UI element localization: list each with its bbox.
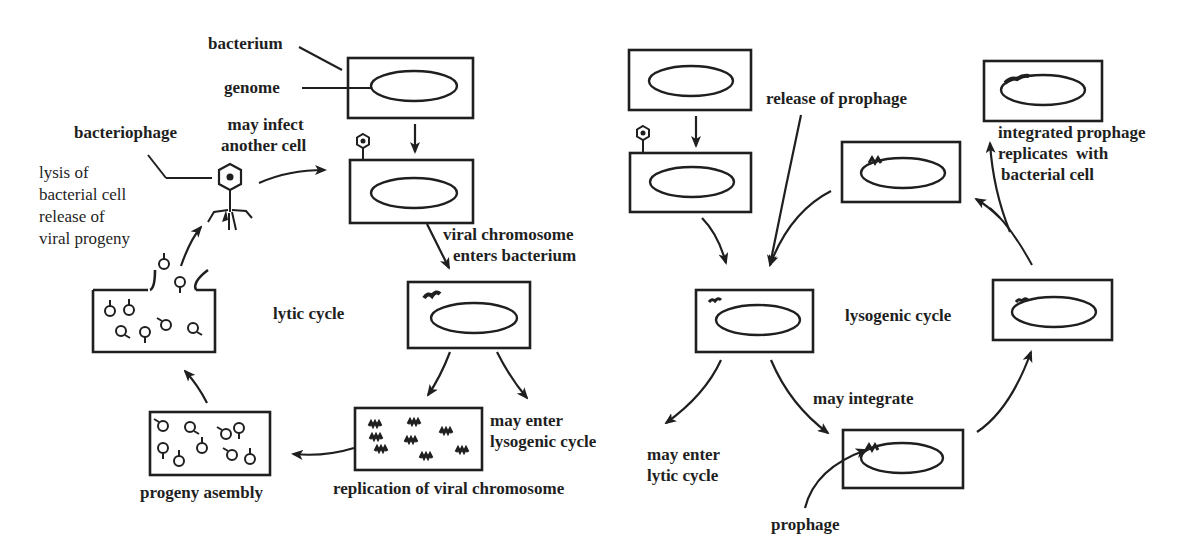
- label-lysis-line4: viral progeny: [39, 228, 130, 250]
- bacteriophage-icon: [208, 164, 252, 230]
- infected-cell: [350, 134, 473, 223]
- lysogenic-cycle: [629, 50, 1112, 508]
- phage-life-cycle-diagram: [0, 0, 1203, 559]
- bacteriophage-pointer: [148, 155, 166, 178]
- label-may-enter-lytic-line2: lytic cycle: [647, 465, 720, 486]
- replicating-cell: [993, 280, 1112, 340]
- prophage-pointer: [805, 450, 866, 508]
- lyso-bacterium-cell: [629, 50, 751, 110]
- arrow-to-replicating: [977, 352, 1031, 432]
- label-prophage: prophage: [771, 514, 840, 535]
- arrow-release: [181, 227, 201, 266]
- label-may-infect-line1: may infect: [221, 114, 306, 135]
- replication-cell: [355, 408, 482, 470]
- arrow-to-replication: [428, 352, 450, 395]
- integrating-cell: [843, 430, 963, 488]
- bacterium-pointer: [299, 47, 342, 70]
- label-integrated-line3: bacterial cell: [998, 164, 1146, 185]
- label-integrated-line1: integrated prophage: [998, 122, 1146, 143]
- arrow-to-upper-cell: [976, 199, 1000, 218]
- label-replication: replication of viral chromosome: [333, 478, 564, 499]
- label-lysis-line1: lysis of: [39, 162, 130, 184]
- label-integrated-line2: replicates with: [998, 143, 1146, 164]
- label-lysis-line2: bacterial cell: [39, 184, 130, 206]
- lysis-cell: [93, 253, 215, 352]
- label-may-enter-lytic-line1: may enter: [647, 444, 720, 465]
- label-may-enter-lyso-line1: may enter: [490, 410, 596, 431]
- label-lysogenic-cycle: lysogenic cycle: [845, 305, 951, 326]
- arrow-infect-another: [259, 170, 325, 183]
- label-lysis: lysis of bacterial cell release of viral…: [39, 162, 130, 250]
- label-may-integrate: may integrate: [813, 388, 914, 409]
- arrow-up-stem: [990, 208, 1032, 265]
- arrow-to-lysis: [185, 371, 207, 403]
- label-viral-enters-line2: enters bacterium: [443, 245, 576, 266]
- lyso-arrow-to-center: [702, 218, 726, 263]
- viral-chromosome-cell: [408, 282, 530, 348]
- arrow-to-lytic: [666, 360, 721, 423]
- integrated-cell-upper: [842, 142, 960, 202]
- arrow-to-assembly: [293, 448, 354, 455]
- label-genome: genome: [224, 77, 280, 98]
- progeny-assembly-cell: [150, 412, 270, 475]
- label-lysis-line3: release of: [39, 206, 130, 228]
- label-viral-enters-line1: viral chromosome: [443, 224, 576, 245]
- label-may-infect: may infect another cell: [221, 114, 306, 156]
- label-release-prophage: release of prophage: [766, 88, 907, 109]
- label-may-enter-lyso-line2: lysogenic cycle: [490, 431, 596, 452]
- lyso-viral-cell: [696, 290, 813, 352]
- label-lytic-cycle: lytic cycle: [273, 303, 344, 324]
- label-viral-enters: viral chromosome enters bacterium: [443, 224, 576, 266]
- label-progeny-assembly: progeny asembly: [140, 482, 263, 503]
- label-integrated-prophage: integrated prophage replicates with bact…: [998, 122, 1146, 185]
- arrow-release-prophage: [770, 115, 801, 265]
- label-may-infect-line2: another cell: [221, 135, 306, 156]
- arrow-from-integrated: [770, 191, 831, 265]
- label-may-enter-lytic: may enter lytic cycle: [647, 444, 720, 486]
- label-may-enter-lysogenic: may enter lysogenic cycle: [490, 410, 596, 452]
- lyso-infected-cell: [630, 126, 751, 212]
- label-bacterium: bacterium: [208, 33, 283, 54]
- arrow-to-lysogenic: [497, 352, 527, 398]
- label-bacteriophage: bacteriophage: [74, 122, 177, 143]
- integrated-prophage-cell: [984, 61, 1102, 121]
